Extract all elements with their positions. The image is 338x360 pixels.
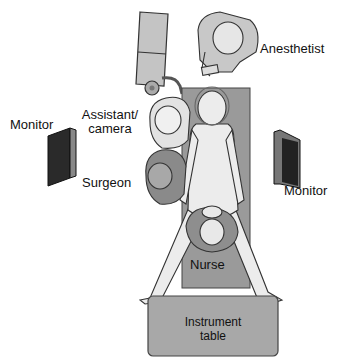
anesthetist-figure (198, 12, 258, 76)
label-assistant-camera: Assistant/ camera (78, 108, 142, 136)
label-anesthetist: Anesthetist (260, 42, 324, 56)
label-assistant-line2: camera (78, 122, 142, 136)
label-instrument-table-line2: table (148, 329, 278, 343)
label-monitor-left: Monitor (10, 118, 53, 132)
label-instrument-table: Instrument table (148, 315, 278, 343)
anesthesia-cart (136, 12, 182, 95)
monitor-left (48, 128, 76, 186)
label-assistant-line1: Assistant/ (78, 108, 142, 122)
surgeon-figure (146, 150, 186, 204)
label-surgeon: Surgeon (82, 176, 131, 190)
assistant-figure (150, 97, 190, 148)
label-monitor-right: Monitor (284, 184, 327, 198)
label-nurse: Nurse (190, 258, 225, 272)
label-instrument-table-line1: Instrument (148, 315, 278, 329)
monitor-right (274, 130, 300, 188)
